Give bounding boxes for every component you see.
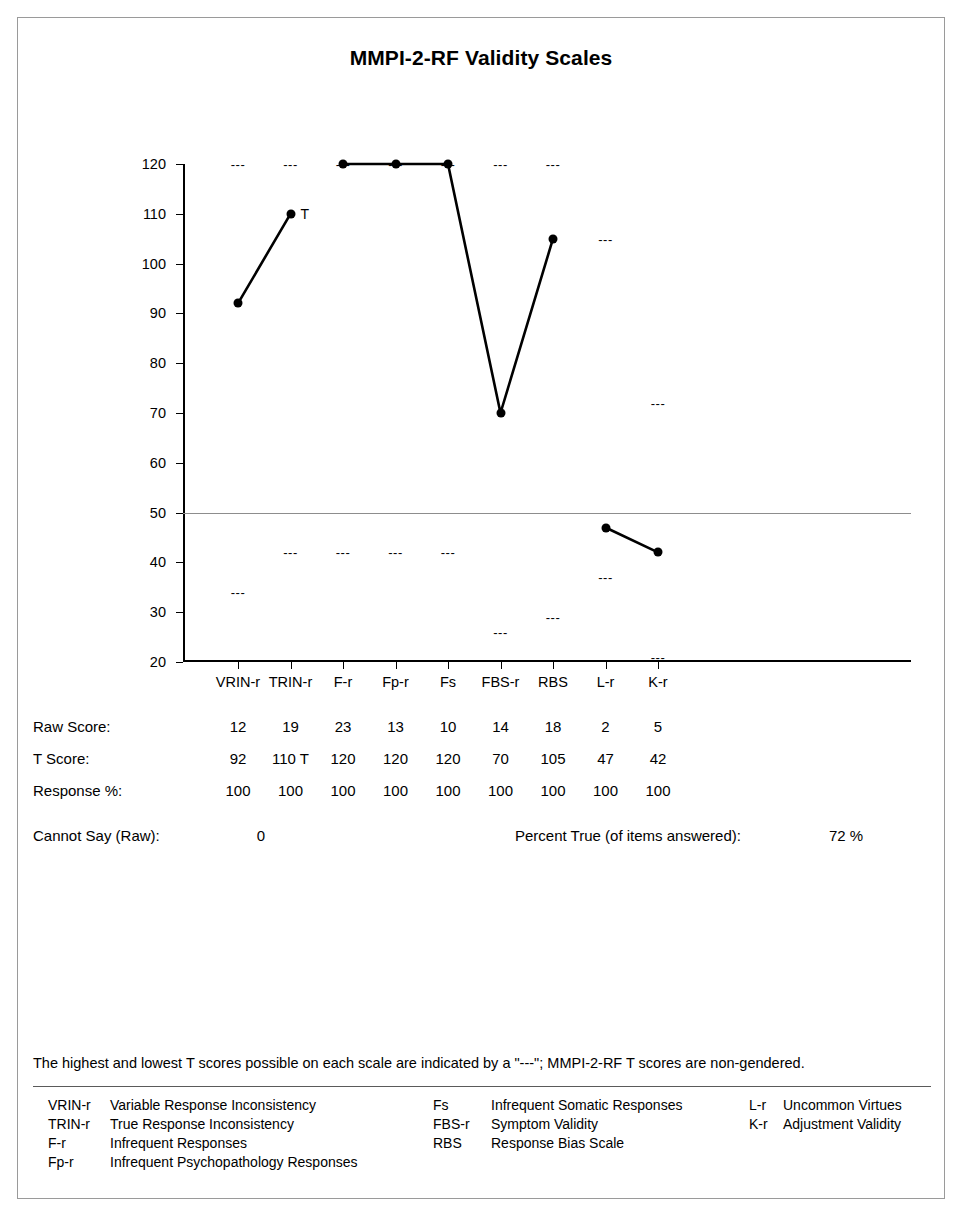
- x-tick-TRIN-r: [291, 662, 292, 669]
- data-point-K-r: [654, 548, 663, 557]
- score-row: Response %:100100100100100100100100100: [18, 782, 946, 814]
- legend-abbr: TRIN-r: [48, 1115, 110, 1134]
- max-limit-marker-VRIN-r: ---: [231, 158, 246, 171]
- legend-description: Response Bias Scale: [491, 1134, 624, 1153]
- score-cell-TRIN-r: 110 T: [272, 750, 309, 767]
- x-axis-label-TRIN-r: TRIN-r: [269, 674, 313, 690]
- score-cell-F-r: 23: [335, 718, 352, 735]
- x-tick-RBS: [553, 662, 554, 669]
- min-limit-marker-L-r: ---: [598, 571, 613, 584]
- legend-description: Infrequent Responses: [110, 1134, 247, 1153]
- legend-abbr: Fs: [433, 1096, 491, 1115]
- score-cell-TRIN-r: 100: [278, 782, 303, 799]
- y-tick-50: 50: [176, 513, 183, 514]
- score-cell-FBS-r: 70: [492, 750, 509, 767]
- score-cell-VRIN-r: 12: [230, 718, 247, 735]
- score-cell-Fp-r: 100: [383, 782, 408, 799]
- legend-abbr: RBS: [433, 1134, 491, 1153]
- x-axis-label-K-r: K-r: [648, 674, 667, 690]
- min-limit-marker-K-r: ---: [651, 651, 666, 664]
- percent-true-value: 72 %: [829, 827, 863, 844]
- y-tick-label-50: 50: [150, 505, 166, 521]
- x-tick-F-r: [343, 662, 344, 669]
- y-tick-120: 120: [176, 164, 183, 165]
- y-tick-label-120: 120: [142, 156, 166, 172]
- score-cell-L-r: 100: [593, 782, 618, 799]
- legend-entry-VRIN-r: VRIN-rVariable Response Inconsistency: [48, 1096, 358, 1115]
- score-cell-L-r: 47: [597, 750, 614, 767]
- y-tick-label-40: 40: [150, 554, 166, 570]
- legend-abbr: K-r: [749, 1115, 783, 1134]
- legend-abbr: F-r: [48, 1134, 110, 1153]
- legend-column-3: L-rUncommon VirtuesK-rAdjustment Validit…: [749, 1096, 902, 1134]
- legend-entry-Fs: FsInfrequent Somatic Responses: [433, 1096, 682, 1115]
- profile-line-segment-0: [238, 214, 291, 304]
- cannot-say-value: 0: [257, 827, 265, 844]
- data-point-TRIN-r: [286, 209, 295, 218]
- x-tick-FBS-r: [501, 662, 502, 669]
- x-axis-label-RBS: RBS: [538, 674, 568, 690]
- cannot-say-label: Cannot Say (Raw):: [33, 827, 160, 844]
- min-limit-marker-TRIN-r: ---: [283, 546, 298, 559]
- x-axis-label-VRIN-r: VRIN-r: [216, 674, 260, 690]
- x-axis-label-L-r: L-r: [597, 674, 615, 690]
- y-tick-60: 60: [176, 463, 183, 464]
- y-tick-20: 20: [176, 662, 183, 663]
- score-cell-Fp-r: 120: [383, 750, 408, 767]
- data-point-L-r: [601, 523, 610, 532]
- score-cell-FBS-r: 100: [488, 782, 513, 799]
- legend-abbr: VRIN-r: [48, 1096, 110, 1115]
- data-point-Fp-r: [391, 160, 400, 169]
- score-cell-F-r: 100: [330, 782, 355, 799]
- min-limit-marker-Fp-r: ---: [388, 546, 403, 559]
- score-cell-VRIN-r: 92: [230, 750, 247, 767]
- score-summary-table: Raw Score:1219231310141825T Score:92110 …: [18, 718, 946, 861]
- legend-abbr: L-r: [749, 1096, 783, 1115]
- score-cell-K-r: 5: [654, 718, 662, 735]
- legend-description: Adjustment Validity: [783, 1115, 901, 1134]
- data-point-Fs: [444, 160, 453, 169]
- legend-entry-RBS: RBSResponse Bias Scale: [433, 1134, 682, 1153]
- score-cell-Fs: 10: [440, 718, 457, 735]
- data-point-RBS: [549, 234, 558, 243]
- y-tick-label-30: 30: [150, 604, 166, 620]
- y-tick-40: 40: [176, 562, 183, 563]
- legend-divider: [33, 1086, 931, 1087]
- y-tick-label-20: 20: [150, 654, 166, 670]
- legend-entry-FBS-r: FBS-rSymptom Validity: [433, 1115, 682, 1134]
- y-tick-80: 80: [176, 363, 183, 364]
- x-axis-label-Fp-r: Fp-r: [382, 674, 409, 690]
- legend-description: Variable Response Inconsistency: [110, 1096, 316, 1115]
- score-row: T Score:92110 T120120120701054742: [18, 750, 946, 782]
- score-cell-F-r: 120: [330, 750, 355, 767]
- legend-description: Infrequent Psychopathology Responses: [110, 1153, 358, 1172]
- profile-line-segment-1: [343, 164, 553, 413]
- min-limit-marker-RBS: ---: [546, 611, 561, 624]
- y-tick-label-90: 90: [150, 305, 166, 321]
- chart-plot-area: 1201101009080706050403020 --------------…: [183, 164, 911, 662]
- chart-line-segments: [183, 164, 911, 662]
- score-cell-RBS: 18: [545, 718, 562, 735]
- score-cell-K-r: 42: [650, 750, 667, 767]
- x-axis-label-FBS-r: FBS-r: [482, 674, 520, 690]
- score-row: Raw Score:1219231310141825: [18, 718, 946, 750]
- point-annotation-TRIN-r: T: [301, 206, 310, 222]
- score-cell-L-r: 2: [601, 718, 609, 735]
- chart-footnote: The highest and lowest T scores possible…: [33, 1054, 931, 1073]
- x-tick-Fs: [448, 662, 449, 669]
- y-tick-label-110: 110: [143, 206, 166, 222]
- x-axis-label-F-r: F-r: [334, 674, 353, 690]
- y-tick-110: 110: [176, 214, 183, 215]
- legend-description: Infrequent Somatic Responses: [491, 1096, 682, 1115]
- validity-scales-chart: 1201101009080706050403020 --------------…: [18, 18, 946, 718]
- legend-entry-L-r: L-rUncommon Virtues: [749, 1096, 902, 1115]
- y-tick-30: 30: [176, 612, 183, 613]
- max-limit-marker-K-r: ---: [651, 397, 666, 410]
- percent-true-label: Percent True (of items answered):: [515, 827, 741, 844]
- min-limit-marker-Fs: ---: [441, 546, 456, 559]
- legend-entry-F-r: F-rInfrequent Responses: [48, 1134, 358, 1153]
- max-limit-marker-FBS-r: ---: [493, 158, 508, 171]
- score-cell-RBS: 100: [540, 782, 565, 799]
- legend-abbr: Fp-r: [48, 1153, 110, 1172]
- x-tick-VRIN-r: [238, 662, 239, 669]
